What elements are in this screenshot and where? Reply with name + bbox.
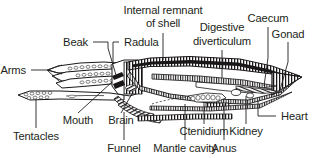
label-digestive-line1: Digestive: [200, 21, 245, 33]
label-funnel: Funnel: [107, 142, 140, 154]
label-mantle-cavity: Mantle cavity: [153, 142, 217, 154]
label-digestive-line2: diverticulum: [193, 35, 251, 47]
label-tentacles: Tentacles: [13, 130, 59, 142]
label-brain: Brain: [108, 114, 133, 126]
label-heart: Heart: [281, 110, 309, 122]
leader-radula: [113, 42, 119, 62]
heart-shape: [246, 93, 253, 98]
label-gonad: Gonad: [272, 28, 305, 40]
brain-shape: [126, 85, 137, 91]
squid-diagram-artwork: [18, 57, 302, 124]
label-anus: Anus: [212, 142, 237, 154]
leader-caecum: [264, 27, 268, 86]
label-caecum: Caecum: [248, 12, 289, 24]
label-radula: Radula: [124, 36, 159, 48]
label-internal-remnant-line1: Internal remnant: [123, 4, 203, 16]
label-kidney: Kidney: [229, 125, 263, 137]
label-internal-remnant-line2: of shell: [146, 17, 180, 29]
label-mouth: Mouth: [63, 114, 93, 126]
tentacle-group: [18, 91, 124, 100]
anatomy-figure: Internal remnant of shell Caecum Digesti…: [0, 0, 318, 158]
label-arms: Arms: [0, 64, 26, 76]
ctenidium-gill: [188, 93, 226, 102]
kidney-shape: [231, 90, 240, 96]
label-beak: Beak: [63, 36, 88, 48]
label-ctenidium: Ctenidium: [179, 125, 228, 137]
